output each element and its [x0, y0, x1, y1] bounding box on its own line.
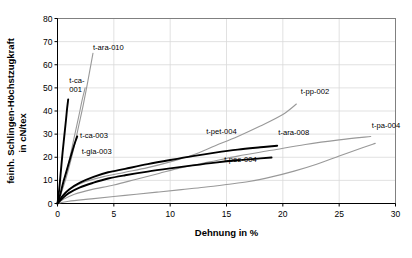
x-axis-tick-label: 10 — [165, 209, 175, 219]
series-label-t-ca-003: t-ca-003 — [80, 131, 108, 140]
series-label-t-pet-004: t-pet-004 — [206, 127, 236, 136]
x-axis-tick-label: 5 — [111, 209, 116, 219]
series-label-line: t-ara-010 — [93, 43, 124, 52]
y-axis-tick-label: 40 — [43, 106, 53, 116]
series-label-line: t-pet-004 — [206, 127, 236, 136]
x-axis-tick-label: 0 — [55, 209, 60, 219]
line-chart: 01020304050607080051015202530Dehnung in … — [0, 0, 412, 258]
y-axis-tick-label: 70 — [43, 37, 53, 47]
series-label-t-pa-004: t-pa-004 — [372, 121, 400, 130]
y-axis-tick-label: 80 — [43, 14, 53, 24]
series-label-line: t-ca-003 — [80, 131, 108, 140]
series-label-t-ara-010: t-ara-010 — [93, 43, 124, 52]
series-label-line: 001 — [69, 85, 82, 94]
series-label-line: t-pa-004 — [372, 121, 400, 130]
series-label-line: t-ca- — [69, 76, 85, 85]
y-axis-tick-label: 60 — [43, 60, 53, 70]
series-label-line: t-pp-002 — [301, 87, 329, 96]
series-label-line: t-pee-004 — [224, 155, 257, 164]
y-axis-tick-label: 20 — [43, 152, 53, 162]
series-label-line: t-gla-003 — [82, 147, 112, 156]
y-axis-title-line2: in cN/tex — [17, 112, 28, 152]
y-axis-tick-label: 0 — [48, 199, 53, 209]
chart-container: 01020304050607080051015202530Dehnung in … — [0, 0, 412, 258]
x-axis-title: Dehnung in % — [195, 227, 259, 238]
y-axis-tick-label: 30 — [43, 129, 53, 139]
series-label-t-gla-003: t-gla-003 — [82, 147, 112, 156]
series-label-t-ara-008: t-ara-008 — [278, 128, 309, 137]
series-label-t-pee-004: t-pee-004 — [224, 155, 257, 164]
y-axis-tick-label: 10 — [43, 175, 53, 185]
y-axis-title-line1: feinh. Schlingen-Höchstzugkraft — [5, 37, 16, 184]
y-axis-tick-label: 50 — [43, 83, 53, 93]
x-axis-tick-label: 25 — [334, 209, 344, 219]
x-axis-tick-label: 30 — [391, 209, 401, 219]
x-axis-tick-label: 15 — [222, 209, 232, 219]
series-label-t-pp-002: t-pp-002 — [301, 87, 329, 96]
series-label-line: t-ara-008 — [278, 128, 309, 137]
x-axis-tick-label: 20 — [278, 209, 288, 219]
